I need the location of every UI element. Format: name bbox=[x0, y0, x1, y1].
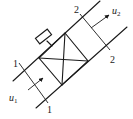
section-1-bottom-label: 1 bbox=[47, 104, 52, 115]
motor-body bbox=[35, 29, 51, 44]
u2-label: u2 bbox=[112, 5, 121, 18]
section-2-top-label: 2 bbox=[74, 4, 79, 15]
section-2-bottom-label: 2 bbox=[110, 54, 115, 65]
u1-label: u1 bbox=[9, 92, 18, 105]
u2-arrow-icon bbox=[91, 15, 109, 28]
section-2-line bbox=[80, 14, 110, 50]
section-1-top-label: 1 bbox=[13, 58, 18, 69]
motor-shaft bbox=[47, 41, 52, 46]
duct-fan-diagram: 1 1 2 2 u1 u2 bbox=[0, 0, 133, 119]
u1-arrow-icon bbox=[28, 78, 43, 90]
motor bbox=[35, 29, 52, 46]
section-1-line bbox=[19, 63, 48, 103]
